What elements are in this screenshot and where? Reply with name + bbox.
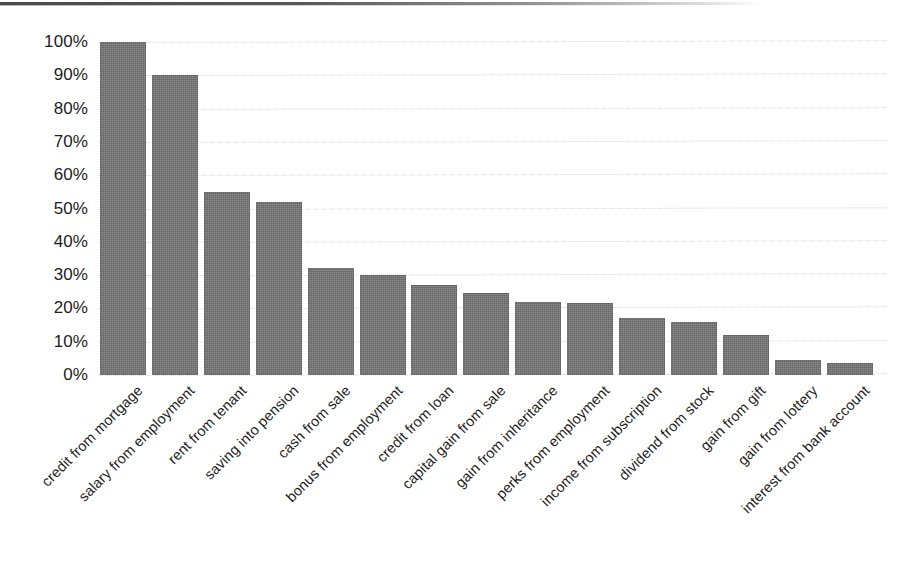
bar-chart: 100%90%80%70%60%50%40%30%20%10%0% credit…	[0, 0, 902, 561]
x-axis-tick-label: dividend from stock	[616, 383, 716, 483]
x-axis-tick-label: gain from inheritance	[453, 383, 560, 490]
x-axis-labels: credit from mortgagesalary from employme…	[0, 0, 902, 561]
x-axis-tick-label: saving into pension	[202, 383, 301, 482]
x-axis-tick-label: capital gain from sale	[400, 383, 509, 492]
x-axis-tick-label: credit from mortgage	[39, 383, 145, 489]
